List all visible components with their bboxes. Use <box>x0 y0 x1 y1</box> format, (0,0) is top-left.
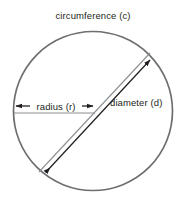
circumference-label: circumference (c) <box>55 10 130 21</box>
diagram-canvas: circumference (c) radius (r) diameter (d… <box>0 0 183 209</box>
diameter-label: diameter (d) <box>110 97 162 108</box>
circle-geometry-diagram: circumference (c) radius (r) diameter (d… <box>0 0 183 209</box>
diameter-arrow-line <box>46 60 150 172</box>
radius-label: radius (r) <box>36 101 75 112</box>
